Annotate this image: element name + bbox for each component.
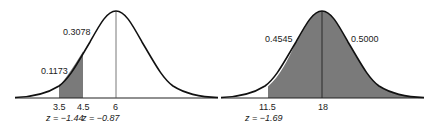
left-tick-4-5: 4.5 (77, 102, 90, 112)
left-tick-3-5: 3.5 (53, 102, 66, 112)
left-curve-line (15, 11, 218, 98)
right-area-right-label: 0.5000 (351, 34, 379, 44)
normal-curves-diagram: 0.3078 0.1173 3.5 4.5 6 z = −1.44 z = −0… (0, 0, 436, 126)
right-shaded-region (268, 11, 424, 98)
left-area-upper-label: 0.3078 (63, 27, 91, 37)
right-area-left-label: 0.4545 (265, 34, 293, 44)
left-z-label-b: z = −0.87 (81, 113, 121, 123)
left-tick-mean: 6 (113, 102, 118, 112)
right-z-label: z = −1.69 (244, 113, 283, 123)
left-z-label-a: z = −1.44 (45, 113, 84, 123)
right-tick-11-5: 11.5 (259, 102, 276, 112)
left-area-shaded-label: 0.1173 (41, 66, 68, 76)
left-normal-curve: 0.3078 0.1173 3.5 4.5 6 z = −1.44 z = −0… (15, 11, 218, 123)
right-normal-curve: 0.4545 0.5000 11.5 18 z = −1.69 (221, 11, 424, 123)
right-tick-mean: 18 (318, 102, 328, 112)
